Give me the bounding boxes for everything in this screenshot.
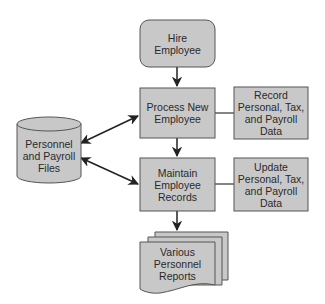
node-files-label: Personnel and Payroll Files	[17, 133, 81, 178]
node-process-label: Process New Employee	[140, 88, 215, 138]
edge-files-process	[81, 116, 138, 143]
node-maintain-label: Maintain Employee Records	[140, 158, 215, 211]
node-hire-label: Hire Employee	[140, 20, 215, 67]
edge-files-maintain	[81, 158, 138, 184]
node-record-label: Record Personal, Tax, and Payroll Data	[234, 87, 308, 139]
node-update-label: Update Personal, Tax, and Payroll Data	[234, 158, 308, 211]
node-reports-label: Various Personnel Reports	[140, 243, 215, 285]
